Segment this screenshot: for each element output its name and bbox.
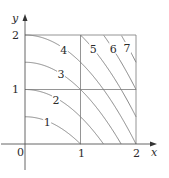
x-tick-2: 2 [133, 147, 140, 160]
level-label-2: 2 [53, 94, 60, 107]
level-label-6: 6 [110, 43, 117, 56]
y-axis-arrow-icon [23, 14, 28, 21]
y-axis-label: y [11, 12, 19, 25]
level-label-7: 7 [124, 42, 131, 55]
level-label-1: 1 [44, 116, 51, 129]
level-labels: 1234567 [43, 42, 131, 129]
x-tick-0: 0 [17, 146, 24, 159]
level-curve-3 [25, 62, 121, 144]
contour-plot: 1234567 0 1 2 1 2 x y [0, 0, 169, 178]
y-tick-1: 1 [12, 83, 19, 96]
level-label-5: 5 [90, 43, 97, 56]
level-curve-2 [25, 90, 103, 144]
level-curve-1 [25, 117, 81, 144]
level-curve-6 [104, 35, 136, 89]
x-axis-label: x [151, 146, 158, 159]
level-label-3: 3 [58, 68, 65, 81]
level-label-4: 4 [60, 44, 67, 57]
x-tick-1: 1 [78, 147, 85, 160]
y-tick-2: 2 [12, 29, 19, 42]
